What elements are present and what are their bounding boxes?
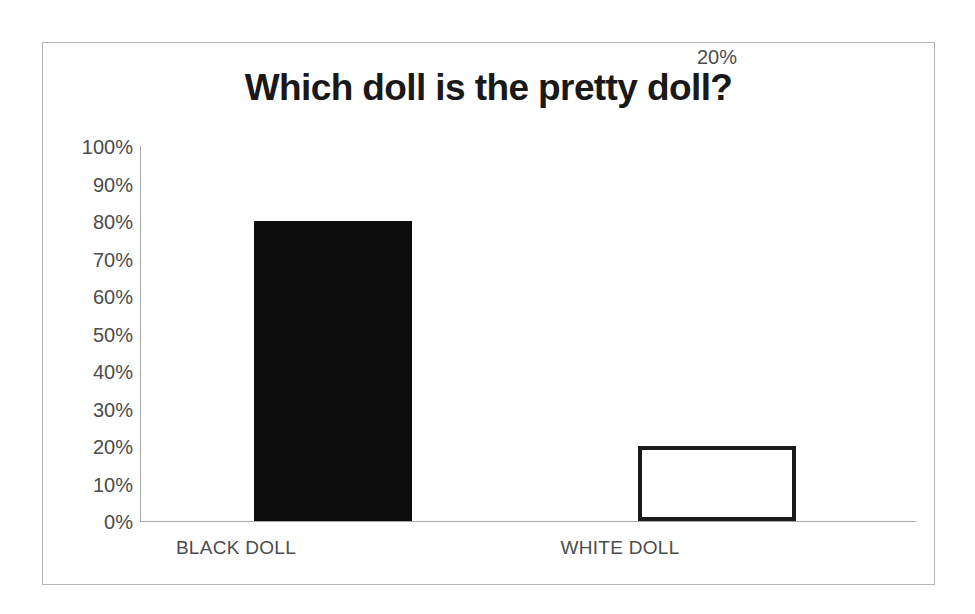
y-tick-100: 100% xyxy=(51,137,133,157)
bar-white-doll[interactable] xyxy=(638,446,796,521)
y-tick-80: 80% xyxy=(51,212,133,232)
y-tick-50: 50% xyxy=(51,325,133,345)
bar-value-white-doll: 20% xyxy=(638,47,796,67)
y-axis-tick-labels: 100% 90% 80% 70% 60% 50% 40% 30% 20% 10%… xyxy=(51,146,133,521)
chart-title: Which doll is the pretty doll? xyxy=(43,67,934,109)
y-tick-90: 90% xyxy=(51,175,133,195)
bar-black-doll[interactable] xyxy=(254,221,412,521)
y-tick-20: 20% xyxy=(51,437,133,457)
x-axis-line xyxy=(140,521,916,522)
y-tick-10: 10% xyxy=(51,475,133,495)
y-tick-0: 0% xyxy=(51,512,133,532)
y-tick-40: 40% xyxy=(51,362,133,382)
x-axis-label-black-doll: BLACK DOLL xyxy=(157,538,315,557)
y-tick-60: 60% xyxy=(51,287,133,307)
chart-frame: Which doll is the pretty doll? 100% 90% … xyxy=(42,42,935,585)
x-axis-label-white-doll: WHITE DOLL xyxy=(541,538,699,557)
y-tick-70: 70% xyxy=(51,250,133,270)
y-tick-30: 30% xyxy=(51,400,133,420)
plot-area: 80% 20% xyxy=(140,146,916,521)
